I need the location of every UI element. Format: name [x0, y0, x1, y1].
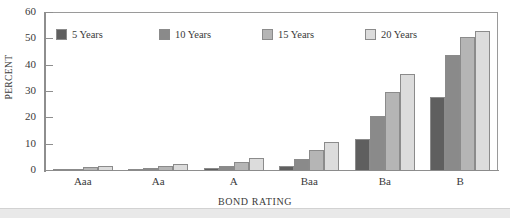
legend-label: 15 Years: [278, 29, 314, 40]
legend-label: 20 Years: [381, 29, 417, 40]
bond-rating-default-chart: 0102030405060 PERCENT AaaAaABaaBaB BOND …: [0, 0, 510, 218]
legend-label: 5 Years: [72, 29, 103, 40]
bar: [68, 169, 83, 171]
x-tick-label: B: [410, 175, 510, 187]
bar: [355, 139, 370, 171]
legend-swatch-icon: [56, 29, 67, 40]
bar: [385, 92, 400, 171]
legend-item: 20 Years: [365, 29, 417, 40]
y-tick-label: 10: [2, 138, 36, 148]
bar-group: [430, 13, 490, 171]
bar: [445, 55, 460, 171]
bar: [98, 166, 113, 171]
bar: [158, 166, 173, 171]
bar: [324, 142, 339, 171]
legend-item: 10 Years: [159, 29, 211, 40]
bar: [219, 166, 234, 171]
bar: [400, 74, 415, 171]
legend-item: 15 Years: [262, 29, 314, 40]
bar-group: [204, 13, 264, 171]
legend-label: 10 Years: [175, 29, 211, 40]
bar: [294, 159, 309, 171]
bar: [475, 31, 490, 171]
bar: [309, 150, 324, 171]
legend-item: 5 Years: [56, 29, 103, 40]
bar: [128, 169, 143, 171]
y-tick-label: 50: [2, 32, 36, 42]
bar: [370, 116, 385, 171]
y-axis-title: PERCENT: [4, 47, 14, 107]
bar: [173, 164, 188, 171]
legend-swatch-icon: [159, 29, 170, 40]
y-tick-label: 60: [2, 6, 36, 16]
bar: [83, 167, 98, 171]
bar: [143, 168, 158, 171]
bar: [53, 169, 68, 171]
bar: [204, 168, 219, 171]
x-axis-title: BOND RATING: [0, 196, 510, 207]
bar: [234, 162, 249, 171]
y-tick-label: 0: [2, 164, 36, 174]
y-tick-label: 20: [2, 111, 36, 121]
legend-swatch-icon: [262, 29, 273, 40]
bar: [279, 166, 294, 171]
bar: [249, 158, 264, 171]
legend-swatch-icon: [365, 29, 376, 40]
bar: [430, 97, 445, 171]
page-bottom-strip: [0, 208, 510, 218]
bar: [460, 37, 475, 171]
